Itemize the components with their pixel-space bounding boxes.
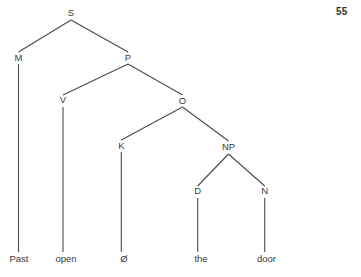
- tree-node-layer: SMPVOKNPDNPastopenØthedoor: [9, 7, 276, 264]
- tree-node-o: O: [179, 95, 186, 106]
- tree-node-m: M: [15, 52, 23, 63]
- tree-leaf-w3: Ø: [120, 253, 128, 264]
- tree-node-s: S: [68, 7, 74, 18]
- tree-node-d: D: [194, 185, 201, 196]
- tree-leaf-w1: Past: [9, 253, 28, 264]
- tree-leaf-w5: door: [257, 253, 276, 264]
- tree-branch-o-k: [121, 107, 182, 140]
- syntax-tree-diagram: SMPVOKNPDNPastopenØthedoor: [0, 0, 361, 277]
- tree-branch-s-p: [71, 20, 128, 52]
- tree-branch-np-d: [198, 154, 229, 186]
- tree-node-p: P: [125, 52, 131, 63]
- tree-leaf-w2: open: [55, 253, 76, 264]
- tree-branch-p-o: [128, 64, 183, 95]
- tree-branch-p-v: [63, 64, 128, 95]
- tree-node-n: N: [261, 185, 268, 196]
- page-number: 55: [336, 6, 348, 17]
- tree-branch-s-m: [19, 20, 72, 52]
- tree-branch-np-n: [229, 154, 265, 186]
- tree-node-v: V: [60, 94, 67, 105]
- tree-branch-o-np: [183, 107, 229, 141]
- tree-branch-layer: [19, 20, 265, 252]
- tree-node-k: K: [118, 140, 125, 151]
- tree-leaf-w4: the: [194, 253, 207, 264]
- diagram-page: SMPVOKNPDNPastopenØthedoor 55: [0, 0, 361, 277]
- tree-node-np: NP: [222, 141, 235, 152]
